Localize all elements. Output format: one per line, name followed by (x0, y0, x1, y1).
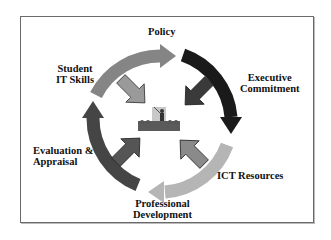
label-line: Development (133, 209, 192, 220)
label-line: Student (56, 63, 94, 74)
teacher-classroom-icon (138, 107, 180, 131)
label-policy: Policy (148, 26, 175, 37)
label-line: Appraisal (33, 156, 93, 167)
label-ict-resources: ICT Resources (217, 170, 283, 181)
label-line: Executive (240, 72, 299, 83)
label-line: Evaluation & (33, 145, 93, 156)
label-line: IT Skills (56, 74, 94, 85)
label-evaluation-appraisal: Evaluation & Appraisal (33, 145, 93, 167)
label-executive-commitment: Executive Commitment (240, 72, 299, 94)
label-student-it-skills: Student IT Skills (56, 63, 94, 85)
label-professional-development: Professional Development (133, 198, 192, 220)
label-line: Commitment (240, 83, 299, 94)
label-line: Professional (133, 198, 192, 209)
